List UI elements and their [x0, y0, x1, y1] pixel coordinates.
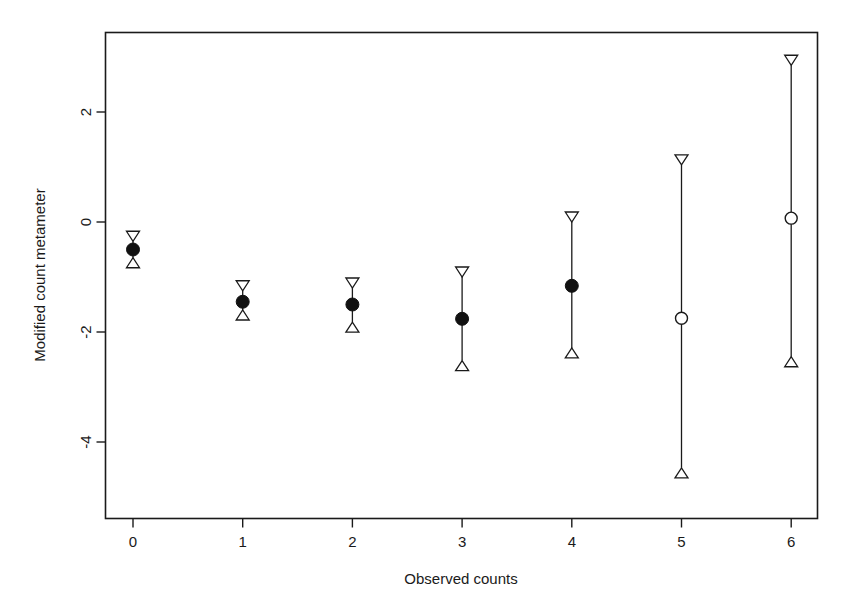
upper-limit-down-triangle-icon [675, 155, 688, 165]
data-point-group [346, 278, 359, 332]
upper-limit-down-triangle-icon [346, 278, 359, 288]
y-tick-label: -4 [77, 435, 94, 448]
upper-limit-down-triangle-icon [456, 267, 469, 277]
lower-limit-up-triangle-icon [675, 468, 688, 478]
data-point-group [785, 55, 798, 367]
x-tick-label: 2 [348, 533, 356, 550]
x-tick-label: 5 [677, 533, 685, 550]
chart-figure: 20-2-4 0123456 Modified count metameter … [0, 0, 861, 616]
upper-limit-down-triangle-icon [236, 281, 249, 291]
data-point-group [565, 212, 578, 358]
data-point-group [456, 267, 469, 371]
point-marker-filled [127, 243, 140, 256]
x-tick-label: 3 [458, 533, 466, 550]
y-tick-label: 0 [77, 218, 94, 226]
lower-limit-up-triangle-icon [785, 357, 798, 367]
lower-limit-up-triangle-icon [236, 310, 249, 320]
lower-limit-up-triangle-icon [346, 322, 359, 332]
y-tick-label: -2 [77, 325, 94, 338]
upper-limit-down-triangle-icon [127, 231, 140, 241]
y-axis-title: Modified count metameter [31, 188, 48, 361]
lower-limit-up-triangle-icon [565, 348, 578, 358]
lower-limit-up-triangle-icon [127, 258, 140, 268]
point-marker-filled [236, 295, 249, 308]
x-axis-title: Observed counts [404, 570, 517, 587]
x-tick-label: 4 [568, 533, 576, 550]
upper-limit-down-triangle-icon [565, 212, 578, 222]
y-tick-label: 2 [77, 108, 94, 116]
data-point-group [127, 231, 140, 268]
y-axis: 20-2-4 [77, 108, 106, 449]
point-marker-open [785, 212, 797, 224]
data-point-group [675, 155, 688, 478]
x-tick-label: 6 [787, 533, 795, 550]
x-tick-label: 1 [239, 533, 247, 550]
point-marker-filled [346, 298, 359, 311]
data-series-group [127, 55, 798, 478]
lower-limit-up-triangle-icon [456, 361, 469, 371]
x-axis: 0123456 [129, 519, 796, 550]
upper-limit-down-triangle-icon [785, 55, 798, 65]
point-marker-filled [456, 312, 469, 325]
point-marker-open [676, 312, 688, 324]
x-tick-label: 0 [129, 533, 137, 550]
data-point-group [236, 281, 249, 320]
scatter-plot-with-error-bars: 20-2-4 0123456 Modified count metameter … [0, 0, 861, 616]
point-marker-filled [565, 279, 578, 292]
